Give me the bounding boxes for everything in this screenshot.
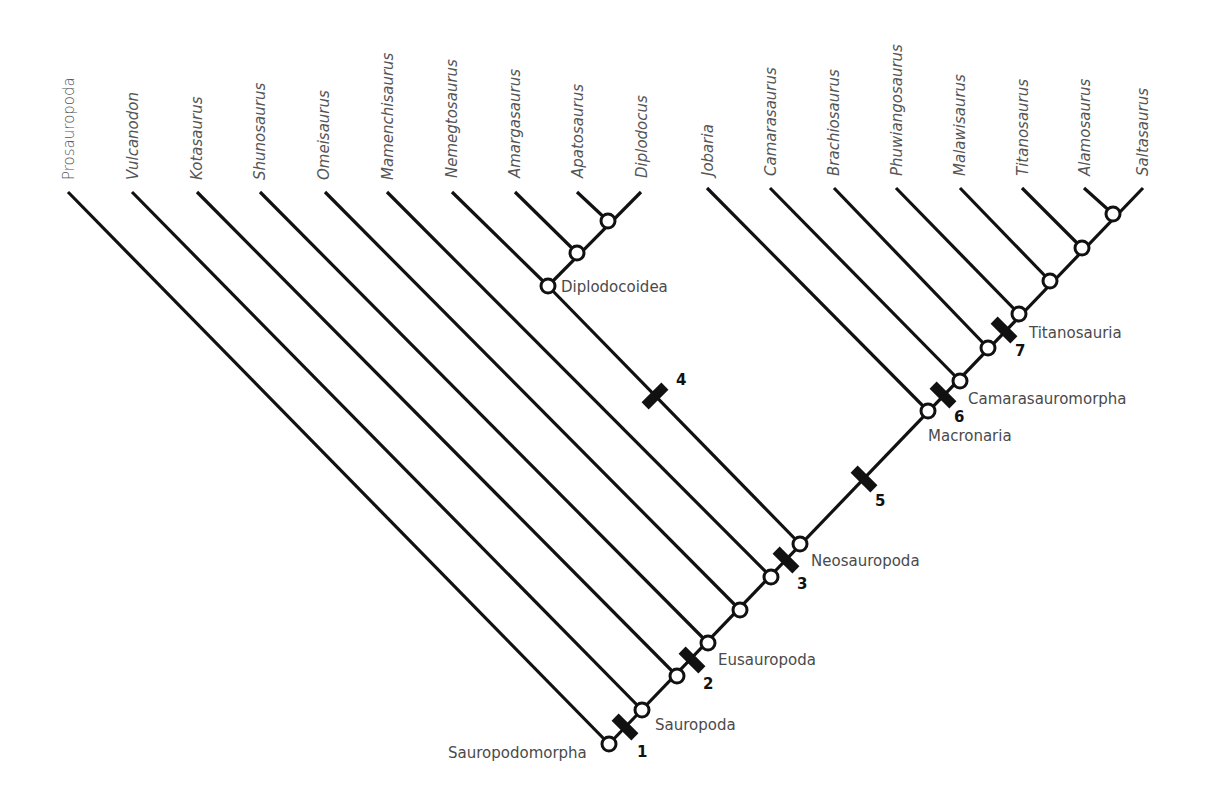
branch-titanosaurus bbox=[1022, 188, 1082, 248]
synapomorphy-number-7: 7 bbox=[1015, 342, 1025, 360]
taxon-label: Omeisaurus bbox=[315, 90, 333, 180]
taxon-labels: Prosauropoda Vulcanodon Kotasaurus Shuno… bbox=[60, 44, 1152, 180]
taxon-label: Camarasaurus bbox=[762, 67, 780, 176]
node-titanosauria bbox=[1012, 307, 1026, 321]
clade-label-sauropoda: Sauropoda bbox=[655, 716, 736, 734]
branch-shunosaurus bbox=[260, 192, 708, 643]
taxon-label: Malawisaurus bbox=[951, 74, 969, 176]
clade-label-macronaria: Macronaria bbox=[928, 427, 1012, 445]
branch-brachiosaurus bbox=[834, 188, 988, 348]
taxon-label: Apatosaurus bbox=[569, 84, 587, 179]
node-eusauropoda bbox=[701, 636, 715, 650]
taxon-label: Prosauropoda bbox=[60, 77, 78, 180]
node-macronaria bbox=[921, 404, 935, 418]
node-amargasaurus-plus bbox=[570, 246, 584, 260]
taxon-label: Jobaria bbox=[699, 124, 717, 179]
synapomorphy-number-2: 2 bbox=[703, 675, 713, 693]
node-titanosaurus-plus bbox=[1075, 241, 1089, 255]
taxon-label: Phuwiangosaurus bbox=[888, 44, 906, 176]
synapomorphy-number-4: 4 bbox=[676, 371, 686, 389]
branch-omeisaurus bbox=[325, 192, 740, 610]
tick-7 bbox=[991, 317, 1018, 344]
clade-label-diplodocoidea: Diplodocoidea bbox=[561, 278, 668, 296]
branch-camarasaurus bbox=[770, 188, 960, 381]
cladogram-diagram: Prosauropoda Vulcanodon Kotasaurus Shuno… bbox=[0, 0, 1205, 801]
clade-label-neosauropoda: Neosauropoda bbox=[811, 552, 920, 570]
node-camarasauromorpha bbox=[953, 374, 967, 388]
node-diplodocidae bbox=[601, 214, 615, 228]
synapomorphy-number-6: 6 bbox=[954, 408, 964, 426]
branch-amargasaurus bbox=[515, 192, 577, 253]
taxon-label: Titanosaurus bbox=[1014, 79, 1032, 176]
branch-prosauropoda bbox=[68, 192, 609, 744]
node-saltasaurinae bbox=[1106, 207, 1120, 221]
taxon-label: Saltasaurus bbox=[1134, 88, 1152, 176]
clade-label-titanosauria: Titanosauria bbox=[1028, 324, 1122, 342]
taxon-label: Diplodocus bbox=[633, 95, 651, 178]
taxon-label: Mamenchisaurus bbox=[379, 52, 397, 180]
branch-phuwiangosaurus bbox=[896, 188, 1019, 314]
node-diplodocoidea bbox=[541, 279, 555, 293]
clade-label-sauropodomorpha: Sauropodomorpha bbox=[448, 744, 587, 762]
branch-kotasaurus bbox=[197, 192, 677, 676]
synapomorphy-number-3: 3 bbox=[797, 575, 807, 593]
taxon-label: Amargasaurus bbox=[506, 69, 524, 179]
node-mamenchisaurus-plus bbox=[764, 570, 778, 584]
synapomorphy-number-1: 1 bbox=[637, 743, 647, 761]
taxon-label: Alamosaurus bbox=[1076, 78, 1094, 177]
branch-jobaria bbox=[707, 188, 928, 411]
taxon-label: Kotasaurus bbox=[188, 96, 206, 180]
node-sauropoda bbox=[635, 703, 649, 717]
clade-label-camarasauromorpha: Camarasauromorpha bbox=[968, 390, 1127, 408]
branch-diplodocoidea-stem bbox=[548, 286, 800, 544]
node-neosauropoda bbox=[793, 537, 807, 551]
node-omeisaurus-plus bbox=[733, 603, 747, 617]
node-sauropodomorpha bbox=[602, 737, 616, 751]
taxon-label: Shunosaurus bbox=[251, 83, 269, 180]
taxon-label: Nemegtosaurus bbox=[443, 59, 461, 178]
cladogram-svg: Prosauropoda Vulcanodon Kotasaurus Shuno… bbox=[0, 0, 1205, 801]
synapomorphy-number-5: 5 bbox=[875, 492, 885, 510]
node-kotasaurus-plus bbox=[670, 669, 684, 683]
taxon-label: Vulcanodon bbox=[124, 92, 142, 180]
node-malawisaurus-plus bbox=[1043, 274, 1057, 288]
clade-label-eusauropoda: Eusauropoda bbox=[718, 651, 816, 669]
taxon-label: Brachiosaurus bbox=[825, 69, 843, 176]
branches bbox=[68, 188, 1143, 744]
node-brachiosaurus-plus bbox=[981, 341, 995, 355]
